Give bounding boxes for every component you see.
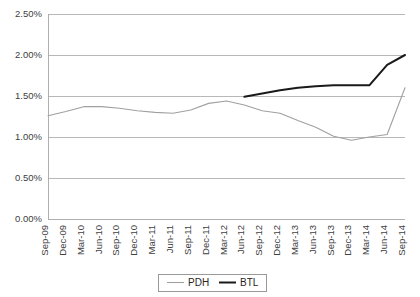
x-tick-label: Sep-10 — [110, 225, 121, 256]
y-tick-label: 1.50% — [15, 90, 42, 101]
chart-canvas: 0.00%0.50%1.00%1.50%2.00%2.50% Sep-09Dec… — [0, 0, 420, 297]
x-tick-label: Sep-12 — [253, 225, 264, 256]
x-tick-label: Dec-12 — [271, 225, 282, 256]
y-tick-label: 2.00% — [15, 49, 42, 60]
chart-legend: PDHBTL — [158, 274, 266, 291]
plot-area — [48, 55, 405, 140]
x-tick-label: Dec-09 — [57, 225, 68, 256]
x-axis-tick-labels: Sep-09Dec-09Mar-10Jun-10Sep-10Dec-10Mar-… — [39, 225, 407, 256]
x-tick-label: Mar-12 — [218, 225, 229, 255]
x-tick-label: Mar-14 — [360, 225, 371, 255]
y-tick-label: 1.00% — [15, 131, 42, 142]
line-chart: 0.00%0.50%1.00%1.50%2.00%2.50% Sep-09Dec… — [0, 0, 420, 297]
x-tick-label: Mar-10 — [75, 225, 86, 255]
y-tick-label: 0.50% — [15, 172, 42, 183]
x-tick-label: Dec-11 — [200, 225, 211, 255]
x-tick-label: Dec-13 — [342, 225, 353, 256]
x-tick-label: Sep-09 — [39, 225, 50, 256]
x-tick-label: Mar-11 — [146, 225, 157, 254]
legend-label-btl: BTL — [240, 277, 259, 288]
x-tick-label: Jun-11 — [164, 225, 175, 253]
y-axis-tick-labels: 0.00%0.50%1.00%1.50%2.00%2.50% — [15, 8, 42, 224]
series-line-btl — [244, 55, 405, 97]
legend-label-pdh: PDH — [188, 277, 209, 288]
x-tick-label: Dec-10 — [128, 225, 139, 256]
x-tick-label: Sep-11 — [182, 225, 193, 255]
x-tick-label: Jun-13 — [307, 225, 318, 254]
x-tick-label: Jun-12 — [235, 225, 246, 254]
y-tick-label: 2.50% — [15, 8, 42, 19]
x-tick-label: Sep-14 — [396, 225, 407, 256]
x-tick-label: Sep-13 — [325, 225, 336, 256]
x-tick-label: Jun-10 — [93, 225, 104, 254]
x-tick-label: Mar-13 — [289, 225, 300, 255]
x-tick-label: Jun-14 — [378, 225, 389, 254]
grid-lines — [48, 14, 405, 219]
y-tick-label: 0.00% — [15, 213, 42, 224]
